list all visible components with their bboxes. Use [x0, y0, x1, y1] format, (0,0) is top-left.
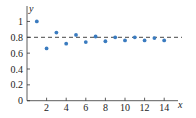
scatter-chart: 246810121400.20.40.60.81 x y: [0, 0, 196, 118]
x-tick-label: 14: [159, 102, 169, 113]
x-tick-label: 6: [83, 102, 88, 113]
y-tick-label: 0.2: [11, 79, 24, 90]
data-point: [123, 39, 127, 43]
y-tick-label: 1: [18, 16, 23, 27]
y-axis-label: y: [28, 3, 34, 14]
y-tick-label: 0.6: [11, 48, 24, 59]
data-point: [74, 33, 78, 37]
data-points: [35, 20, 166, 51]
x-tick-label: 2: [44, 102, 49, 113]
data-point: [45, 46, 49, 50]
data-point: [94, 35, 98, 39]
x-axis-label: x: [177, 99, 183, 110]
y-tick-label: 0.4: [11, 64, 24, 75]
data-point: [64, 42, 68, 46]
x-tick-label: 12: [140, 102, 150, 113]
axes: [27, 6, 178, 101]
data-point: [153, 36, 157, 40]
ticks: 246810121400.20.40.60.81: [11, 16, 170, 113]
data-point: [143, 39, 147, 43]
data-point: [133, 35, 137, 39]
x-tick-label: 8: [103, 102, 108, 113]
x-tick-label: 4: [64, 102, 69, 113]
data-point: [55, 31, 59, 35]
data-point: [113, 35, 117, 39]
y-tick-label: 0: [18, 95, 23, 106]
x-tick-label: 10: [120, 102, 130, 113]
data-point: [35, 20, 39, 24]
y-tick-label: 0.8: [11, 32, 24, 43]
data-point: [104, 39, 108, 43]
data-point: [84, 40, 88, 44]
data-point: [162, 39, 166, 43]
